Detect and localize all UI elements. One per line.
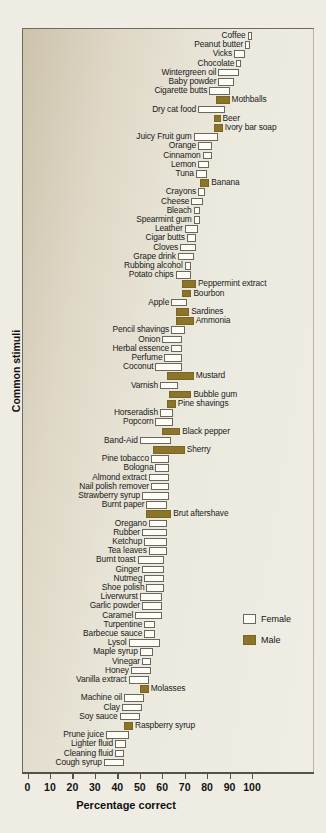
- bar-label: Popcorn: [123, 417, 154, 426]
- x-tick: [162, 772, 163, 779]
- legend-swatch-male: [243, 635, 256, 645]
- x-axis-line: [22, 772, 314, 774]
- bar-female: [198, 106, 225, 114]
- bar-male: [124, 722, 133, 730]
- bar-label: Apple: [148, 298, 169, 307]
- x-tick-label: 90: [224, 781, 236, 793]
- bar-male: [176, 308, 189, 316]
- bar-label: Dry cat food: [152, 105, 196, 114]
- bar-female: [115, 740, 126, 748]
- bar-label: Mothballs: [232, 95, 267, 104]
- bar-male: [162, 428, 180, 436]
- bar-female: [149, 547, 167, 555]
- bar-female: [160, 409, 173, 417]
- bar-female: [144, 575, 164, 583]
- x-tick: [207, 772, 208, 779]
- x-tick-label: 30: [89, 781, 101, 793]
- legend-swatch-female: [243, 614, 256, 624]
- bar-male: [182, 290, 191, 298]
- bar-female: [144, 630, 155, 638]
- bar-female: [138, 556, 165, 564]
- x-tick-label: 100: [243, 781, 261, 793]
- x-tick-label: 50: [134, 781, 146, 793]
- bar-label: Cigarette butts: [154, 86, 207, 95]
- chart-page: CoffeePeanut butterVicksChocolateWinterg…: [0, 0, 326, 833]
- bar-label: Sherry: [187, 445, 211, 454]
- bar-female: [155, 363, 182, 371]
- bar-label: Vanilla extract: [76, 675, 126, 684]
- bar-female: [149, 474, 169, 482]
- x-tick: [72, 772, 73, 779]
- bar-female: [236, 60, 240, 68]
- bar-male: [176, 317, 194, 325]
- bar-label: Mustard: [196, 371, 226, 380]
- bar-female: [142, 602, 162, 610]
- bar-label: Coconut: [123, 362, 154, 371]
- x-tick: [230, 772, 231, 779]
- bar-female: [185, 262, 192, 270]
- bar-female: [140, 648, 153, 656]
- x-tick: [185, 772, 186, 779]
- legend-label-female: Female: [261, 614, 291, 624]
- bar-label: Bourbon: [193, 289, 224, 298]
- bar-female: [115, 750, 124, 758]
- x-tick-label: 0: [25, 781, 31, 793]
- x-tick-label: 60: [156, 781, 168, 793]
- bar-label: Cough syrup: [55, 758, 101, 767]
- bar-female: [155, 464, 168, 472]
- bar-row: Cough syrup: [22, 759, 314, 770]
- bar-male: [214, 115, 221, 123]
- bar-label: Raspberry syrup: [135, 721, 195, 730]
- bar-female: [146, 584, 164, 592]
- bar-male: [200, 179, 209, 187]
- bar-female: [142, 566, 164, 574]
- bar-female: [149, 520, 167, 528]
- bar-female: [144, 538, 166, 546]
- bar-label: Ivory bar soap: [225, 123, 277, 132]
- bar-male: [167, 400, 176, 408]
- bar-label: Ammonia: [196, 316, 231, 325]
- bar-male: [153, 446, 184, 454]
- x-tick-label: 70: [179, 781, 191, 793]
- bar-label: Banana: [211, 178, 239, 187]
- bar-female: [180, 244, 196, 252]
- x-tick-label: 40: [111, 781, 123, 793]
- bar-male: [182, 280, 195, 288]
- x-tick-label: 20: [67, 781, 79, 793]
- bar-rows-container: CoffeePeanut butterVicksChocolateWinterg…: [22, 32, 314, 768]
- bar-female: [122, 704, 142, 712]
- bar-female: [140, 437, 171, 445]
- bar-male: [167, 372, 194, 380]
- bar-male: [214, 124, 223, 132]
- bar-female: [146, 501, 166, 509]
- bar-female: [160, 382, 178, 390]
- x-tick: [117, 772, 118, 779]
- bar-label: Pine shavings: [178, 399, 229, 408]
- bar-female: [196, 170, 207, 178]
- bar-female: [209, 87, 229, 95]
- x-tick: [95, 772, 96, 779]
- x-tick: [140, 772, 141, 779]
- x-tick: [28, 772, 29, 779]
- bar-label: Brut aftershave: [173, 509, 228, 518]
- bar-female: [218, 69, 238, 77]
- bar-female: [151, 483, 169, 491]
- bar-female: [198, 188, 205, 196]
- y-axis-title: Common stimuli: [10, 311, 22, 431]
- bar-female: [129, 676, 149, 684]
- bar-female: [176, 271, 192, 279]
- bar-female: [194, 207, 201, 215]
- bar-female: [187, 234, 196, 242]
- bar-female: [171, 345, 182, 353]
- bar-male: [216, 96, 229, 104]
- bar-male: [146, 510, 171, 518]
- bar-female: [185, 225, 198, 233]
- bar-female: [140, 593, 162, 601]
- legend-item-male: Male: [243, 633, 315, 647]
- bar-label: Tuna: [175, 169, 193, 178]
- bar-female: [155, 418, 173, 426]
- bar-female: [191, 198, 202, 206]
- x-tick: [50, 772, 51, 779]
- bar-label: Black pepper: [182, 427, 230, 436]
- legend-item-female: Female: [243, 612, 315, 626]
